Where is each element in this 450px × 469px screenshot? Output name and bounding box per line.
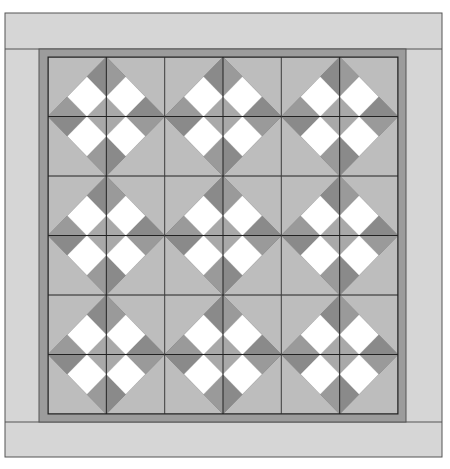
quilt-block [165,295,282,414]
quilt-diagram [0,0,450,469]
quilt-block [281,295,398,414]
quilt-block [48,57,165,176]
quilt-block [281,176,398,295]
quilt-block [281,57,398,176]
quilt-block [165,57,282,176]
quilt-block [165,176,282,295]
quilt-block [48,295,165,414]
block-grid [48,57,398,414]
quilt-block [48,176,165,295]
